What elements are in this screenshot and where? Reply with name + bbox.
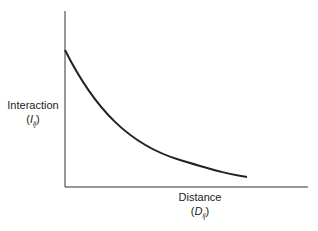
x-axis-label: Distance (Dij)	[160, 190, 240, 223]
x-symbol-sub: ij	[202, 212, 205, 219]
decay-curve	[65, 50, 247, 177]
y-axis-label: Interaction (Iij)	[2, 98, 64, 131]
y-axis-symbol: (Iij)	[2, 112, 64, 131]
y-symbol-sub: ij	[33, 120, 36, 127]
x-axis-title: Distance	[160, 190, 240, 204]
y-axis-title: Interaction	[2, 98, 64, 112]
x-axis-symbol: (Dij)	[160, 204, 240, 223]
